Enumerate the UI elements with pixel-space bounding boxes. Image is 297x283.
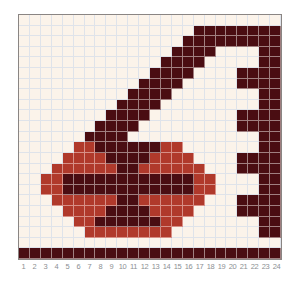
empty-cell [117, 57, 128, 68]
dark-cell [237, 121, 248, 132]
empty-cell [74, 36, 85, 47]
dark-cell [52, 248, 63, 259]
dark-cell [117, 110, 128, 121]
empty-cell [226, 185, 237, 196]
empty-cell [63, 121, 74, 132]
empty-cell [85, 89, 96, 100]
red-cell [52, 164, 63, 175]
dark-cell [117, 153, 128, 164]
empty-cell [41, 217, 52, 228]
empty-cell [85, 79, 96, 90]
dark-cell [237, 195, 248, 206]
dark-cell [194, 248, 205, 259]
dark-cell [183, 36, 194, 47]
empty-cell [85, 100, 96, 111]
red-cell [161, 142, 172, 153]
empty-cell [194, 217, 205, 228]
red-cell [172, 195, 183, 206]
empty-cell [226, 121, 237, 132]
empty-cell [216, 47, 227, 58]
column-label: 14 [161, 262, 172, 271]
dark-cell [259, 26, 270, 37]
red-cell [139, 195, 150, 206]
empty-cell [205, 238, 216, 249]
empty-cell [128, 132, 139, 143]
empty-cell [41, 57, 52, 68]
empty-cell [205, 110, 216, 121]
column-label: 8 [95, 262, 106, 271]
empty-cell [237, 238, 248, 249]
dark-cell [270, 26, 281, 37]
empty-cell [216, 15, 227, 26]
empty-cell [216, 57, 227, 68]
column-label: 11 [128, 262, 139, 271]
empty-cell [183, 238, 194, 249]
dark-cell [106, 153, 117, 164]
empty-cell [19, 153, 30, 164]
empty-cell [216, 142, 227, 153]
empty-cell [30, 217, 41, 228]
dark-cell [128, 100, 139, 111]
colorwork-chart [18, 14, 282, 260]
dark-cell [139, 206, 150, 217]
dark-cell [128, 195, 139, 206]
dark-cell [248, 164, 259, 175]
empty-cell [194, 89, 205, 100]
red-cell [150, 206, 161, 217]
empty-cell [30, 47, 41, 58]
red-cell [172, 217, 183, 228]
empty-cell [172, 110, 183, 121]
empty-cell [205, 100, 216, 111]
dark-cell [106, 110, 117, 121]
empty-cell [85, 47, 96, 58]
dark-cell [106, 206, 117, 217]
red-cell [95, 195, 106, 206]
empty-cell [41, 206, 52, 217]
empty-cell [85, 238, 96, 249]
dark-cell [150, 100, 161, 111]
empty-cell [150, 47, 161, 58]
dark-cell [259, 57, 270, 68]
empty-cell [237, 47, 248, 58]
empty-cell [139, 36, 150, 47]
empty-cell [30, 206, 41, 217]
empty-cell [74, 100, 85, 111]
empty-cell [41, 100, 52, 111]
dark-cell [237, 206, 248, 217]
dark-cell [270, 100, 281, 111]
empty-cell [128, 79, 139, 90]
empty-cell [194, 227, 205, 238]
dark-cell [270, 142, 281, 153]
empty-cell [63, 26, 74, 37]
red-cell [150, 195, 161, 206]
empty-cell [41, 36, 52, 47]
red-cell [150, 227, 161, 238]
empty-cell [248, 89, 259, 100]
red-cell [172, 206, 183, 217]
empty-cell [128, 47, 139, 58]
column-label: 13 [150, 262, 161, 271]
dark-cell [270, 36, 281, 47]
empty-cell [41, 164, 52, 175]
empty-cell [226, 206, 237, 217]
empty-cell [63, 238, 74, 249]
red-cell [95, 227, 106, 238]
dark-cell [95, 121, 106, 132]
dark-cell [226, 36, 237, 47]
dark-cell [237, 110, 248, 121]
empty-cell [30, 15, 41, 26]
red-cell [85, 206, 96, 217]
empty-cell [226, 227, 237, 238]
dark-cell [237, 153, 248, 164]
empty-cell [226, 195, 237, 206]
empty-cell [30, 89, 41, 100]
empty-cell [74, 26, 85, 37]
empty-cell [63, 132, 74, 143]
dark-cell [139, 142, 150, 153]
empty-cell [30, 79, 41, 90]
dark-cell [139, 100, 150, 111]
red-cell [161, 227, 172, 238]
dark-cell [128, 142, 139, 153]
dark-cell [95, 248, 106, 259]
dark-cell [85, 132, 96, 143]
